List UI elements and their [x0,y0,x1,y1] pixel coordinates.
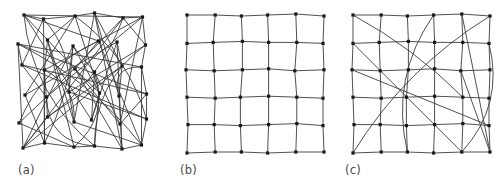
graph-edge [406,96,434,97]
graph-edge [215,97,240,98]
graph-node [73,14,76,17]
graph-node [488,150,491,153]
graph-edge [214,125,215,152]
graph-node [380,150,383,153]
graph-node [213,69,216,72]
graph-node [214,13,217,16]
graph-node [352,123,355,126]
graph-edge [186,70,214,71]
graph-edge [407,152,433,153]
graph-edge [489,70,490,98]
graph-node [46,115,49,118]
graph-node [407,40,410,43]
graph-node [406,150,409,153]
graph-edge [435,124,463,125]
graph-node [71,44,74,47]
graph-node [115,40,118,43]
graph-node [240,150,243,153]
graph-edge [353,42,379,43]
panel-caption-c: (c) [345,163,361,177]
graph-edge [297,124,323,126]
graph-node [406,14,409,17]
graph-node [461,122,464,125]
graph-edge-curved [353,16,490,153]
network-graph-regular [166,0,332,160]
graph-edge [242,41,268,42]
graph-node [21,146,24,149]
graph-node [405,96,408,99]
graph-edge [187,152,215,153]
graph-node [98,91,101,94]
graph-edge [380,70,408,71]
graph-node [351,151,354,154]
graph-node [93,144,96,147]
graph-node [322,68,325,71]
graph-edge [122,145,142,149]
graph-node [117,94,120,97]
graph-node [487,124,490,127]
graph-edge [296,124,297,152]
graph-node [120,147,123,150]
graph-edge [241,152,267,153]
graph-node [72,145,75,148]
graph-edge [95,146,123,149]
panel-small-world [332,0,498,189]
graph-edge [353,125,354,153]
graph-node [432,13,435,16]
graph-edge [435,96,463,97]
graph-edge [380,71,381,98]
graph-node [93,70,96,73]
graph-edge [462,124,463,152]
graph-edge [95,13,124,18]
graph-edge [242,69,268,70]
graph-edge [406,125,434,126]
graph-edge [187,125,188,153]
panel-caption-a: (a) [18,163,35,177]
graph-edge [18,44,23,148]
graph-edge [323,126,324,152]
graph-edge [268,14,296,15]
graph-edge [241,16,242,41]
graph-edge [143,17,146,45]
graph-edge [19,97,47,123]
graph-edge [352,70,380,71]
panel-caption-b: (b) [180,163,197,177]
graph-edge [435,69,461,71]
graph-edge [240,126,241,152]
graph-node [461,41,464,44]
graph-node [121,16,124,19]
graph-edge [434,152,462,153]
graph-node [351,13,354,16]
panel-regular-lattice [166,0,332,189]
graph-node [433,95,436,98]
graph-edge [142,45,146,67]
graph-node [23,93,26,96]
graph-edge [240,70,242,97]
graph-node [20,63,23,66]
graph-edge [269,69,295,71]
graph-node [212,41,215,44]
graph-node [460,12,463,15]
graph-node [43,68,46,71]
graph-node [267,67,270,70]
graph-node [67,90,70,93]
graph-edge [296,14,324,16]
graph-edge [24,15,143,17]
graph-node [267,123,270,126]
graph-node [45,95,48,98]
graph-node [120,64,123,67]
graph-edge [187,42,213,43]
graph-edge [295,71,297,97]
graph-edge [353,152,381,153]
graph-edge [123,18,146,45]
graph-node [72,120,75,123]
graph-edge-curved [47,97,95,146]
graph-edge [353,97,354,124]
graph-node [266,151,269,154]
graph-edge [434,14,462,15]
graph-edge [379,41,408,42]
graph-edge [462,14,490,152]
graph-edge [214,70,242,71]
graph-node [351,42,354,45]
graph-edge [381,15,407,16]
